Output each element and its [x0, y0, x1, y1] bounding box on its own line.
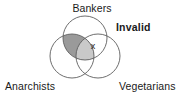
label-invalid-annotation: Invalid — [116, 21, 151, 33]
label-anarchists: Anarchists — [5, 80, 55, 92]
venn-diagram-figure: x Bankers Invalid Anarchists Vegetarians — [0, 0, 184, 99]
label-bankers: Bankers — [0, 2, 184, 14]
label-vegetarians: Vegetarians — [119, 80, 176, 92]
x-marker: x — [91, 41, 96, 51]
